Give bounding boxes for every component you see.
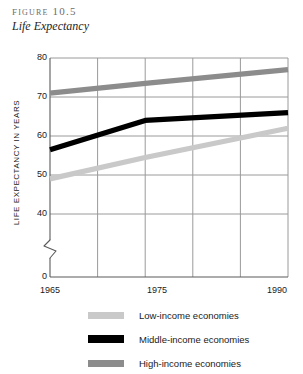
line-chart: LIFE EXPECTANCY IN YEARS 80 70 60 50 40 … (0, 0, 303, 300)
legend-item-middle-income: Middle-income economies (0, 327, 303, 351)
chart-legend: Low-income economies Middle-income econo… (0, 303, 303, 374)
axis-break-icon (44, 240, 56, 258)
legend-item-high-income: High-income economies (0, 351, 303, 374)
legend-label-middle-income: Middle-income economies (139, 334, 249, 345)
series-line-middle-income (50, 113, 288, 150)
series-line-high-income (50, 70, 288, 93)
legend-item-low-income: Low-income economies (0, 303, 303, 327)
legend-label-high-income: High-income economies (139, 358, 241, 369)
legend-swatch-low-income (88, 312, 124, 319)
legend-swatch-high-income (88, 360, 124, 367)
legend-label-low-income: Low-income economies (139, 310, 239, 321)
plot-svg (0, 0, 303, 300)
legend-swatch-middle-income (88, 335, 124, 343)
